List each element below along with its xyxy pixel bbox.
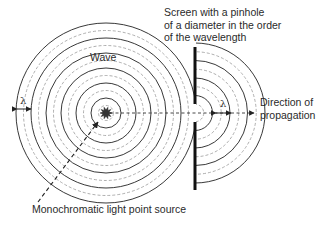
direction-label-line: Direction of <box>260 96 315 109</box>
source-pointer-arrow <box>38 122 98 202</box>
screen-label-line: Screen with a pinhole <box>164 6 281 19</box>
screen-label-line: of a diameter in the order <box>164 19 281 32</box>
direction-label: Direction of propagation <box>260 96 315 121</box>
direction-label-line: propagation <box>260 109 315 122</box>
lambda-right-label: λ <box>220 98 227 109</box>
screen-label-line: of the wavelength <box>164 31 281 44</box>
source-label: Monochromatic light point source <box>32 203 186 216</box>
light-source-icon <box>100 107 112 118</box>
lambda-left-label: λ <box>20 95 27 106</box>
wave-label: Wave <box>90 51 116 64</box>
screen-label: Screen with a pinhole of a diameter in t… <box>164 6 281 44</box>
